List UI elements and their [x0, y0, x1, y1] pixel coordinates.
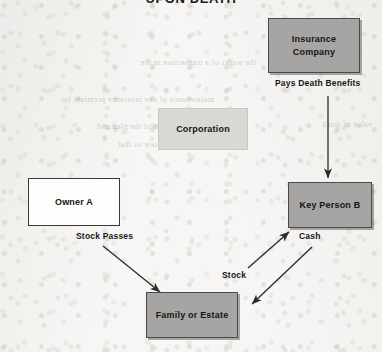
node-insurance-company-label-line1: Insurance: [292, 33, 336, 46]
diagram-canvas: the works of a transaction in the mainte…: [0, 0, 382, 352]
node-owner-a[interactable]: Owner A: [28, 178, 120, 226]
edge-label-stock-passes: Stock Passes: [76, 231, 133, 241]
node-insurance-company[interactable]: Insurance Company: [268, 18, 360, 73]
node-corporation[interactable]: Corporation: [158, 108, 248, 150]
arrow-stock: [248, 232, 289, 268]
node-insurance-company-label-line2: Company: [293, 46, 335, 59]
node-owner-a-label: Owner A: [55, 196, 93, 209]
arrow-stock-passes: [103, 246, 160, 292]
arrow-cash: [252, 247, 312, 304]
edge-label-pays-death-benefits: Pays Death Benefits: [275, 78, 361, 88]
edge-label-stock: Stock: [222, 270, 246, 280]
node-corporation-label: Corporation: [176, 123, 230, 136]
node-family-or-estate-label: Family or Estate: [156, 309, 229, 322]
node-key-person-b[interactable]: Key Person B: [288, 182, 372, 228]
node-key-person-b-label: Key Person B: [300, 199, 361, 212]
edge-label-cash: Cash: [299, 231, 321, 241]
node-family-or-estate[interactable]: Family or Estate: [146, 292, 238, 338]
